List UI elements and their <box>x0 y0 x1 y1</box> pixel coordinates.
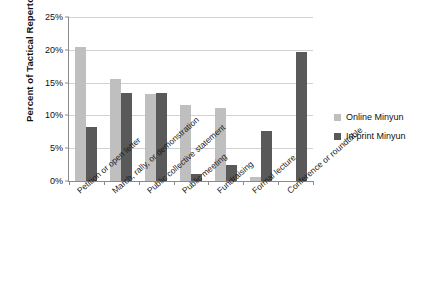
y-tick-label: 15% <box>45 78 63 88</box>
y-tick-label: 5% <box>50 143 63 153</box>
x-tick-mark <box>313 181 314 185</box>
legend-item[interactable]: Online Minyun <box>334 112 406 122</box>
bar[interactable] <box>156 93 167 181</box>
legend-swatch-icon <box>334 114 341 121</box>
y-tick-label: 10% <box>45 110 63 120</box>
x-tick-mark <box>278 181 279 185</box>
y-tick-label: 25% <box>45 12 63 22</box>
bar[interactable] <box>215 108 226 181</box>
bar[interactable] <box>121 93 132 181</box>
x-tick-mark <box>139 181 140 185</box>
legend: Online MinyunIn-print Minyun <box>334 112 406 141</box>
y-axis-title: Percent of Tactical Repertoire <box>24 0 35 139</box>
bar[interactable] <box>180 105 191 181</box>
x-tick-mark <box>69 181 70 185</box>
bar-chart: Percent of Tactical Repertoire 25%20%15%… <box>0 0 421 299</box>
legend-swatch-icon <box>334 133 341 140</box>
legend-label: In-print Minyun <box>346 131 406 141</box>
bar-group <box>243 17 278 181</box>
legend-label: Online Minyun <box>346 112 404 122</box>
legend-item[interactable]: In-print Minyun <box>334 131 406 141</box>
bar-group <box>278 17 313 181</box>
y-tick-label: 0% <box>50 176 63 186</box>
bar-group <box>69 17 104 181</box>
bar[interactable] <box>296 52 307 181</box>
y-tick-label: 20% <box>45 45 63 55</box>
x-tick-mark <box>243 181 244 185</box>
x-tick-mark <box>174 181 175 185</box>
x-tick-mark <box>104 181 105 185</box>
x-tick-mark <box>208 181 209 185</box>
bar[interactable] <box>75 47 86 181</box>
